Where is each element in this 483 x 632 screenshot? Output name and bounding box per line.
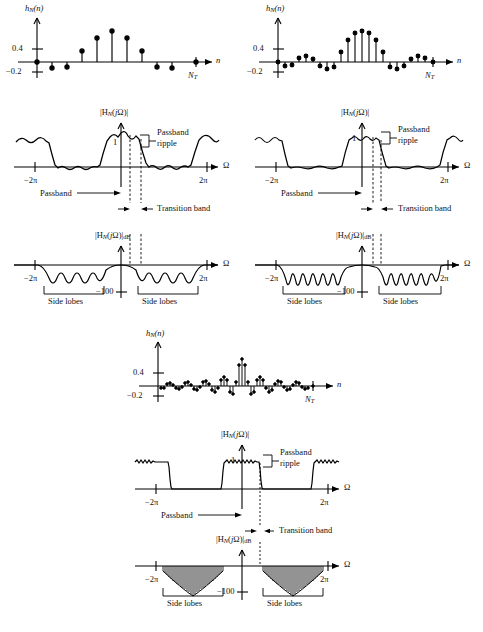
- stem-group-high-order: [160, 358, 315, 396]
- side-lobes-label-left: Side lobes: [287, 296, 322, 306]
- side-lobes-label-right: Side lobes: [142, 296, 177, 306]
- db-tick-2pi: 2π: [320, 574, 329, 584]
- impulse-tick-0-4: 0.4: [133, 367, 144, 377]
- transition-band-label: Transition band: [398, 203, 451, 213]
- db-curve-low-order: [14, 265, 218, 283]
- mag-tick-2pi: 2π: [440, 175, 449, 185]
- impulse-y-label: hN(n): [25, 3, 43, 13]
- db-x-label: Ω: [464, 258, 470, 268]
- db-tick-neg-2pi: −2π: [265, 273, 278, 283]
- panel-high-order: hN(n) n 0.4 −0.2 NT: [121, 332, 363, 632]
- db-tick-2pi: 2π: [440, 273, 449, 283]
- db-curve-mid-order: [255, 265, 459, 285]
- plot-mag-low-order: |HN(jΩ)| Ω −2π 2π 1 Passband ripple Pass…: [0, 95, 241, 220]
- plot-impulse-low-order: hN(n) n 0.4 −0.2 NT: [0, 0, 241, 95]
- magnitude-curve-high-order: [135, 460, 339, 489]
- impulse-x-label: n: [457, 55, 461, 65]
- impulse-x-end-label: NT: [425, 70, 434, 80]
- plot-impulse-high-order: hN(n) n 0.4 −0.2 NT: [121, 332, 363, 420]
- plot-db-high-order: |HN(jΩ)|dB Ω −2π 2π −100 Side lobes Side…: [121, 530, 363, 632]
- passband-ripple-label-2: ripple: [157, 138, 177, 148]
- passband-ripple-label-2: ripple: [398, 135, 418, 145]
- plot-db-low-order: |HN(jΩ)|dB Ω −2π 2π −100 Side lobes Side…: [0, 220, 241, 330]
- passband-ripple-label-1: Passband: [157, 127, 189, 137]
- plot-impulse-mid-order: hN(n) n 0.4 −0.2 NT: [241, 0, 483, 95]
- mag-x-label: Ω: [223, 160, 229, 170]
- passband-label: Passband: [281, 188, 313, 198]
- impulse-tick-0-4: 0.4: [253, 43, 264, 53]
- ripple-bracket: [381, 132, 397, 144]
- magnitude-curve-low-order: [16, 132, 219, 170]
- ripple-bracket: [263, 455, 279, 467]
- passband-label: Passband: [40, 188, 72, 198]
- transition-guides: [130, 135, 141, 203]
- db-tick-neg-100: −100: [217, 586, 235, 596]
- side-lobes-label-right: Side lobes: [383, 296, 418, 306]
- passband-ripple-label-1: Passband: [280, 447, 312, 457]
- db-x-label: Ω: [223, 258, 229, 268]
- stem-group-mid-order: [276, 29, 435, 71]
- magnitude-curve-mid-order: [255, 136, 463, 169]
- impulse-y-label: hN(n): [146, 328, 164, 338]
- transition-guides: [130, 234, 141, 265]
- plot-mag-mid-order: |HN(jΩ)| Ω −2π 2π 1 Passband ripple Pass…: [241, 95, 483, 220]
- db-y-label: |HN(jΩ)|dB: [336, 230, 371, 240]
- passband-ripple-label-2: ripple: [280, 458, 300, 468]
- panel-low-order: hN(n) n 0.4 −0.2 NT: [0, 0, 241, 330]
- db-tick-neg-2pi: −2π: [145, 574, 158, 584]
- passband-ripple-label-1: Passband: [398, 124, 430, 134]
- mag-tick-neg-2pi: −2π: [145, 497, 158, 507]
- panel-mid-order: hN(n) n 0.4 −0.2 NT: [241, 0, 483, 330]
- mag-tick-2pi: 2π: [199, 175, 208, 185]
- plot-mag-high-order: |HN(jΩ)| Ω −2π 2π 1 Passband ripple Pass…: [121, 417, 363, 542]
- db-tick-2pi: 2π: [199, 273, 208, 283]
- impulse-tick-neg-0-2: −0.2: [247, 66, 262, 76]
- plot-db-mid-order: |HN(jΩ)|dB Ω −2π 2π −100 Side lobes Side…: [241, 220, 483, 330]
- db-side-lobe-group-left: [163, 566, 223, 596]
- db-x-label: Ω: [344, 559, 350, 569]
- mag-tick-one: 1: [113, 137, 117, 147]
- impulse-x-label: n: [216, 55, 220, 65]
- mag-y-label: |HN(jΩ)|: [100, 107, 128, 117]
- ripple-bracket: [140, 135, 156, 147]
- db-tick-neg-2pi: −2π: [24, 273, 37, 283]
- mag-x-label: Ω: [344, 482, 350, 492]
- transition-arrows: [361, 207, 393, 211]
- mag-y-label: |HN(jΩ)|: [221, 429, 249, 439]
- mag-tick-neg-2pi: −2π: [24, 175, 37, 185]
- impulse-tick-neg-0-2: −0.2: [127, 390, 142, 400]
- passband-arrow: [198, 513, 242, 518]
- mag-tick-2pi: 2π: [320, 497, 329, 507]
- side-lobes-label-right: Side lobes: [267, 598, 302, 608]
- mag-x-label: Ω: [464, 160, 470, 170]
- db-y-label: |HN(jΩ)|dB: [95, 230, 130, 240]
- transition-band-label: Transition band: [157, 203, 210, 213]
- side-lobes-label-left: Side lobes: [167, 598, 202, 608]
- mag-y-label: |HN(jΩ)|: [341, 107, 369, 117]
- mag-tick-one: 1: [352, 133, 356, 143]
- passband-arrow: [77, 191, 121, 196]
- impulse-x-end-label: NT: [305, 394, 314, 404]
- side-lobes-label-left: Side lobes: [48, 296, 83, 306]
- impulse-tick-0-4: 0.4: [12, 43, 23, 53]
- impulse-x-label: n: [337, 379, 341, 389]
- db-y-label: |HN(jΩ)|dB: [216, 534, 251, 544]
- mag-tick-one: 1: [231, 455, 235, 465]
- stem-group-low-order: [35, 29, 198, 70]
- passband-arrow: [318, 191, 362, 196]
- db-tick-neg-100: −100: [337, 286, 355, 296]
- db-side-lobe-group-right: [263, 566, 323, 596]
- transition-arrows: [118, 207, 153, 211]
- passband-label: Passband: [161, 510, 193, 520]
- impulse-x-end-label: NT: [188, 70, 197, 80]
- mag-tick-neg-2pi: −2π: [265, 175, 278, 185]
- impulse-y-label: hN(n): [266, 3, 284, 13]
- impulse-tick-neg-0-2: −0.2: [6, 66, 21, 76]
- db-tick-neg-100: −100: [96, 286, 114, 296]
